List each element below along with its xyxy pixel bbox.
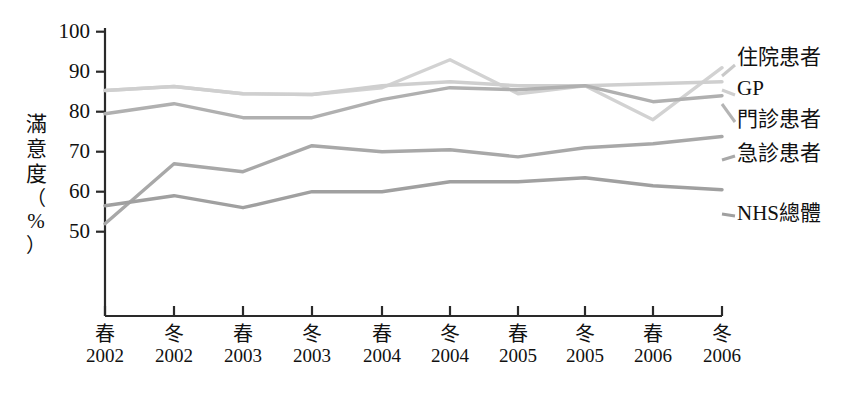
- legend-label-ae-patients: 急診患者: [737, 142, 821, 165]
- x-tick-season-1: 冬: [139, 324, 209, 345]
- x-tick-label-6: 春 2005: [483, 324, 553, 366]
- x-tick-year-3: 2003: [277, 345, 347, 366]
- legend-label-gp: GP: [737, 77, 764, 100]
- x-tick-season-0: 春: [70, 324, 140, 345]
- x-tick-label-5: 冬 2004: [415, 324, 485, 366]
- x-tick-season-6: 春: [483, 324, 553, 345]
- x-tick-season-4: 春: [347, 324, 417, 345]
- series-line-ae-patients: [105, 137, 722, 224]
- x-tick-year-0: 2002: [70, 345, 140, 366]
- line-chart: 滿 意 度 （ % ）: [0, 0, 851, 398]
- leader-line-gp: [722, 90, 735, 95]
- y-tick-label-50: 50: [44, 221, 90, 242]
- series-line-nhs-overall: [105, 178, 722, 208]
- y-tick-label-60: 60: [44, 181, 90, 202]
- series-lines: [105, 60, 722, 224]
- y-tick-label-70: 70: [44, 141, 90, 162]
- x-tick-season-8: 春: [618, 324, 688, 345]
- legend-leader-lines: [722, 65, 735, 216]
- x-tick-season-5: 冬: [415, 324, 485, 345]
- y-ticks: [96, 32, 105, 232]
- x-ticks: [105, 306, 722, 316]
- x-tick-label-1: 冬 2002: [139, 324, 209, 366]
- x-tick-season-2: 春: [208, 324, 278, 345]
- x-tick-year-2: 2003: [208, 345, 278, 366]
- x-tick-season-7: 冬: [550, 324, 620, 345]
- x-tick-year-7: 2005: [550, 345, 620, 366]
- leader-line-outpatients: [722, 104, 735, 122]
- x-tick-label-0: 春 2002: [70, 324, 140, 366]
- x-tick-label-2: 春 2003: [208, 324, 278, 366]
- x-tick-year-6: 2005: [483, 345, 553, 366]
- x-tick-label-3: 冬 2003: [277, 324, 347, 366]
- y-tick-label-100: 100: [44, 21, 90, 42]
- legend-label-inpatients: 住院患者: [737, 46, 821, 69]
- x-tick-year-1: 2002: [139, 345, 209, 366]
- x-tick-year-5: 2004: [415, 345, 485, 366]
- x-tick-year-4: 2004: [347, 345, 417, 366]
- legend-label-outpatients: 門診患者: [737, 108, 821, 131]
- x-tick-season-3: 冬: [277, 324, 347, 345]
- x-tick-year-8: 2006: [618, 345, 688, 366]
- leader-line-nhs-overall: [722, 214, 735, 216]
- leader-line-inpatients: [722, 65, 735, 76]
- x-tick-label-8: 春 2006: [618, 324, 688, 366]
- x-tick-label-4: 春 2004: [347, 324, 417, 366]
- leader-line-ae-patients: [722, 156, 735, 160]
- x-tick-label-9: 冬 2006: [687, 324, 757, 366]
- x-tick-year-9: 2006: [687, 345, 757, 366]
- y-tick-label-80: 80: [44, 101, 90, 122]
- y-tick-label-90: 90: [44, 61, 90, 82]
- x-tick-season-9: 冬: [687, 324, 757, 345]
- x-tick-label-7: 冬 2005: [550, 324, 620, 366]
- legend-label-nhs-overall: NHS總體: [737, 202, 821, 225]
